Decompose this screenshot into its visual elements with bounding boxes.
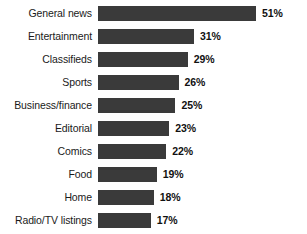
bar <box>98 52 188 67</box>
chart-row: Business/finance25% <box>0 98 307 113</box>
bar-area: 29% <box>98 52 307 67</box>
value-label: 17% <box>157 213 178 228</box>
bar <box>98 75 179 90</box>
chart-row: Food19% <box>0 167 307 182</box>
category-label: Home <box>0 190 98 205</box>
bar-area: 31% <box>98 29 307 44</box>
bar <box>98 98 175 113</box>
chart-row: Editorial23% <box>0 121 307 136</box>
bar <box>98 167 157 182</box>
chart-row: Comics22% <box>0 144 307 159</box>
chart-rows: General news51%Entertainment31%Classifie… <box>0 6 307 228</box>
bar <box>98 144 166 159</box>
category-label: Comics <box>0 144 98 159</box>
bar-chart: General news51%Entertainment31%Classifie… <box>0 0 307 234</box>
bar-area: 18% <box>98 190 307 205</box>
value-label: 18% <box>160 190 181 205</box>
bar-area: 22% <box>98 144 307 159</box>
bar <box>98 190 154 205</box>
category-label: Business/finance <box>0 98 98 113</box>
category-label: General news <box>0 6 98 21</box>
value-label: 22% <box>172 144 193 159</box>
bar-area: 26% <box>98 75 307 90</box>
bar <box>98 29 194 44</box>
chart-row: Radio/TV listings17% <box>0 213 307 228</box>
chart-row: Sports26% <box>0 75 307 90</box>
value-label: 26% <box>185 75 206 90</box>
value-label: 23% <box>175 121 196 136</box>
bar <box>98 213 151 228</box>
bar <box>98 6 256 21</box>
chart-row: Classifieds29% <box>0 52 307 67</box>
chart-row: Home18% <box>0 190 307 205</box>
category-label: Radio/TV listings <box>0 213 98 228</box>
value-label: 25% <box>181 98 202 113</box>
category-label: Food <box>0 167 98 182</box>
chart-row: Entertainment31% <box>0 29 307 44</box>
category-label: Entertainment <box>0 29 98 44</box>
chart-row: General news51% <box>0 6 307 21</box>
bar <box>98 121 169 136</box>
value-label: 29% <box>194 52 215 67</box>
category-label: Sports <box>0 75 98 90</box>
bar-area: 19% <box>98 167 307 182</box>
bar-area: 51% <box>98 6 307 21</box>
value-label: 19% <box>163 167 184 182</box>
value-label: 51% <box>262 6 283 21</box>
bar-area: 25% <box>98 98 307 113</box>
category-label: Classifieds <box>0 52 98 67</box>
bar-area: 17% <box>98 213 307 228</box>
category-label: Editorial <box>0 121 98 136</box>
bar-area: 23% <box>98 121 307 136</box>
value-label: 31% <box>200 29 221 44</box>
